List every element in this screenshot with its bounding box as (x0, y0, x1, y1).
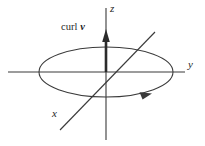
curl-figure: z y x curlv (0, 0, 205, 146)
y-axis-label: y (188, 59, 193, 70)
curl-vector-arrowhead (102, 29, 110, 42)
curl-operator-text: curl (61, 21, 77, 32)
z-axis-label: z (110, 3, 114, 14)
curl-vector-symbol: v (80, 21, 85, 32)
x-axis-label: x (52, 108, 57, 119)
figure-canvas (0, 0, 205, 146)
circulation-arrowhead-icon (140, 92, 153, 99)
curl-vector-label: curlv (61, 22, 85, 33)
